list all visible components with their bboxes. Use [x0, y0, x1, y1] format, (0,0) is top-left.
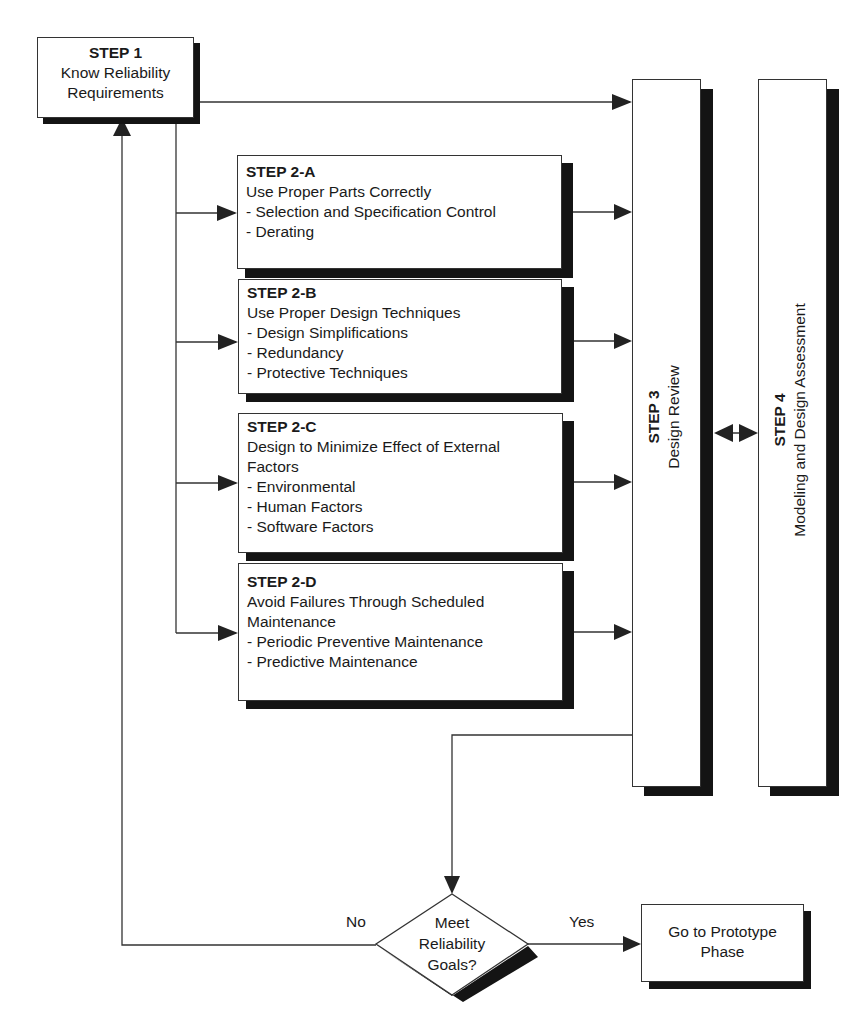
- arrowhead-step3-a: [614, 204, 632, 220]
- step1-line: Know Reliability: [38, 63, 193, 83]
- step2c-line: - Environmental: [247, 477, 556, 497]
- arrowhead-step3-d: [614, 624, 632, 640]
- arrowhead-step3-b: [614, 333, 632, 349]
- step1-box: STEP 1 Know Reliability Requirements: [37, 37, 194, 118]
- arrowhead-step3-c: [614, 474, 632, 490]
- step2a-title: STEP 2-A: [246, 162, 555, 182]
- step4-title: STEP 4: [770, 270, 790, 570]
- arrowhead-step4-left: [714, 424, 733, 442]
- step2d-line: - Predictive Maintenance: [247, 652, 556, 672]
- outcome-box: Go to Prototype Phase: [641, 904, 804, 982]
- step3-label: STEP 3 Design Review: [644, 267, 688, 567]
- step1-title: STEP 1: [38, 43, 193, 63]
- step2c-line: Factors: [247, 457, 556, 477]
- step2d-box: STEP 2-D Avoid Failures Through Schedule…: [238, 563, 563, 701]
- connector-step3-decision: [452, 735, 632, 892]
- step4-label: STEP 4 Modeling and Design Assessment: [770, 270, 814, 570]
- outcome-line: Phase: [642, 942, 803, 962]
- arrowhead-step2c: [218, 475, 238, 491]
- step2b-box: STEP 2-B Use Proper Design Techniques - …: [238, 279, 562, 394]
- step2b-line: - Protective Techniques: [247, 363, 555, 383]
- arrowhead-outcome: [623, 936, 641, 952]
- arrowhead-step4-right: [739, 424, 758, 442]
- step4-subtitle: Modeling and Design Assessment: [790, 270, 810, 570]
- step2a-line: - Derating: [246, 222, 555, 242]
- step3-subtitle: Design Review: [664, 267, 684, 567]
- step2c-line: - Software Factors: [247, 517, 556, 537]
- step2d-line: - Periodic Preventive Maintenance: [247, 632, 556, 652]
- decision-text: Meet Reliability Goals?: [392, 912, 512, 975]
- step2b-line: Use Proper Design Techniques: [247, 303, 555, 323]
- outcome-line: Go to Prototype: [642, 922, 803, 942]
- branch-yes-label: Yes: [569, 913, 594, 931]
- step2d-line: Maintenance: [247, 612, 556, 632]
- step2c-line: Design to Minimize Effect of External: [247, 437, 556, 457]
- step2b-line: - Design Simplifications: [247, 323, 555, 343]
- step2b-title: STEP 2-B: [247, 283, 555, 303]
- decision-line: Goals?: [392, 954, 512, 975]
- arrowhead-step2d: [218, 625, 238, 641]
- decision-line: Meet: [392, 912, 512, 933]
- step2a-line: Use Proper Parts Correctly: [246, 182, 555, 202]
- branch-no-label: No: [346, 913, 366, 931]
- arrowhead-step2b: [218, 334, 238, 350]
- arrowhead-step3-top: [612, 94, 632, 110]
- step3-title: STEP 3: [644, 267, 664, 567]
- step1-line: Requirements: [38, 83, 193, 103]
- step2c-title: STEP 2-C: [247, 417, 556, 437]
- step2c-line: - Human Factors: [247, 497, 556, 517]
- arrowhead-step2a: [217, 205, 237, 221]
- step2d-title: STEP 2-D: [247, 572, 556, 592]
- step2c-box: STEP 2-C Design to Minimize Effect of Ex…: [238, 413, 563, 553]
- arrowhead-decision: [444, 876, 460, 894]
- step2a-line: - Selection and Specification Control: [246, 202, 555, 222]
- step2b-line: - Redundancy: [247, 343, 555, 363]
- step2a-box: STEP 2-A Use Proper Parts Correctly - Se…: [237, 155, 562, 269]
- step2d-line: Avoid Failures Through Scheduled: [247, 592, 556, 612]
- decision-line: Reliability: [392, 933, 512, 954]
